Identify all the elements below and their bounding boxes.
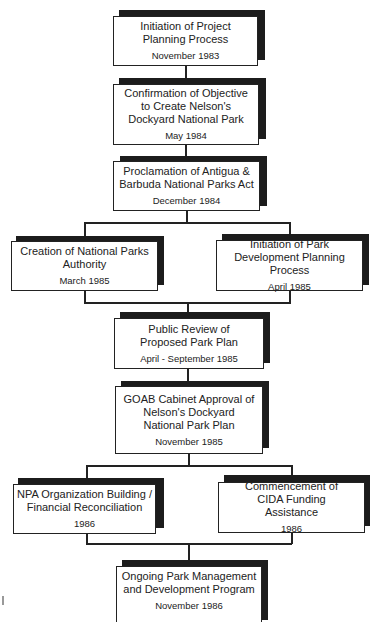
node-proclamation-parks-act: Proclamation of Antigua & Barbuda Nation… — [113, 161, 260, 211]
node-title: Initiation of Park Development Planning … — [219, 238, 361, 277]
scan-artifact — [2, 596, 4, 605]
node-confirmation-objective: Confirmation of Objective to Create Nels… — [113, 84, 259, 145]
node-title: Confirmation of Objective to Create Nels… — [120, 87, 252, 126]
node-initiation-project-planning: Initiation of Project Planning Process N… — [113, 16, 258, 66]
node-creation-npa: Creation of National Parks Authority Mar… — [11, 241, 158, 291]
node-public-review: Public Review of Proposed Park Plan Apri… — [114, 318, 264, 369]
node-title: Proclamation of Antigua & Barbuda Nation… — [118, 165, 256, 191]
node-title: GOAB Cabinet Approval of Nelson's Dockya… — [122, 393, 256, 432]
node-ongoing-park-management: Ongoing Park Management and Development … — [116, 566, 262, 622]
split-line-2 — [86, 465, 292, 467]
node-date: December 1984 — [153, 195, 221, 207]
node-date: November 1983 — [152, 50, 220, 62]
node-title: NPA Organization Building / Financial Re… — [16, 488, 154, 514]
node-title: Public Review of Proposed Park Plan — [124, 323, 254, 349]
split-line-1 — [84, 222, 291, 224]
node-date: 1986 — [74, 518, 95, 530]
node-cida-funding: Commencement of CIDA Funding Assistance … — [218, 482, 365, 533]
node-title: Initiation of Project Planning Process — [131, 20, 241, 46]
node-date: November 1985 — [155, 436, 223, 448]
node-npa-organization-building: NPA Organization Building / Financial Re… — [13, 484, 156, 534]
node-title: Commencement of CIDA Funding Assistance — [232, 480, 352, 519]
node-date: April 1985 — [268, 281, 311, 293]
node-initiation-park-development: Initiation of Park Development Planning … — [216, 240, 363, 291]
node-title: Creation of National Parks Authority — [20, 245, 150, 271]
node-date: April - September 1985 — [140, 353, 238, 365]
node-title: Ongoing Park Management and Development … — [116, 570, 262, 596]
node-date: May 1984 — [165, 130, 207, 142]
node-date: 1986 — [281, 523, 302, 535]
node-date: March 1985 — [59, 275, 109, 287]
node-goab-cabinet-approval: GOAB Cabinet Approval of Nelson's Dockya… — [115, 386, 263, 454]
node-date: November 1986 — [155, 600, 223, 612]
